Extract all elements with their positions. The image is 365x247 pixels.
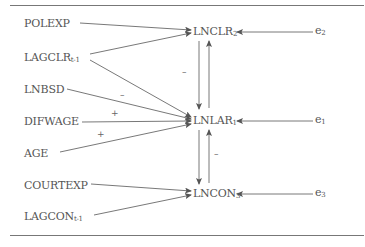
arrow-difwage-lnlar [82,121,191,122]
node-difwage: DIFWAGE [24,116,79,127]
node-lnbsd: LNBSD [24,84,64,95]
node-lncon: LNCON3 [193,188,240,199]
sign-lnbsd: – [120,91,125,100]
node-lagclr: LAGCLRt-1 [24,52,80,63]
node-age: AGE [24,148,48,159]
node-lagcon: LAGCONt-1 [24,211,83,222]
arrow-age-lnlar [60,124,191,152]
node-e2: e2 [315,25,325,36]
node-polexp: POLEXP [24,18,70,29]
arrow-lagcon-lncon [94,195,191,215]
sign-lncon-lnlar: – [214,150,219,159]
node-e3: e3 [315,187,325,198]
arrow-lnbsd-lnlar [67,89,191,119]
arrow-polexp-lnclr [80,23,191,30]
node-lnclr: LNCLR2 [193,26,237,37]
node-lnlar: LNLAR1 [193,115,237,126]
node-e1: e1 [315,114,325,125]
path-diagram: POLEXP LAGCLRt-1 LNBSD DIFWAGE AGE COURT… [0,0,365,247]
arrow-courtexp-lncon [91,184,191,191]
sign-age: + [97,130,105,139]
node-courtexp: COURTEXP [24,180,88,191]
sign-difwage: + [111,109,119,118]
arrow-lagclr-lnclr [90,33,191,54]
arrow-lagclr-lnlar [90,60,191,117]
sign-lnclr-lnlar: – [182,68,187,77]
